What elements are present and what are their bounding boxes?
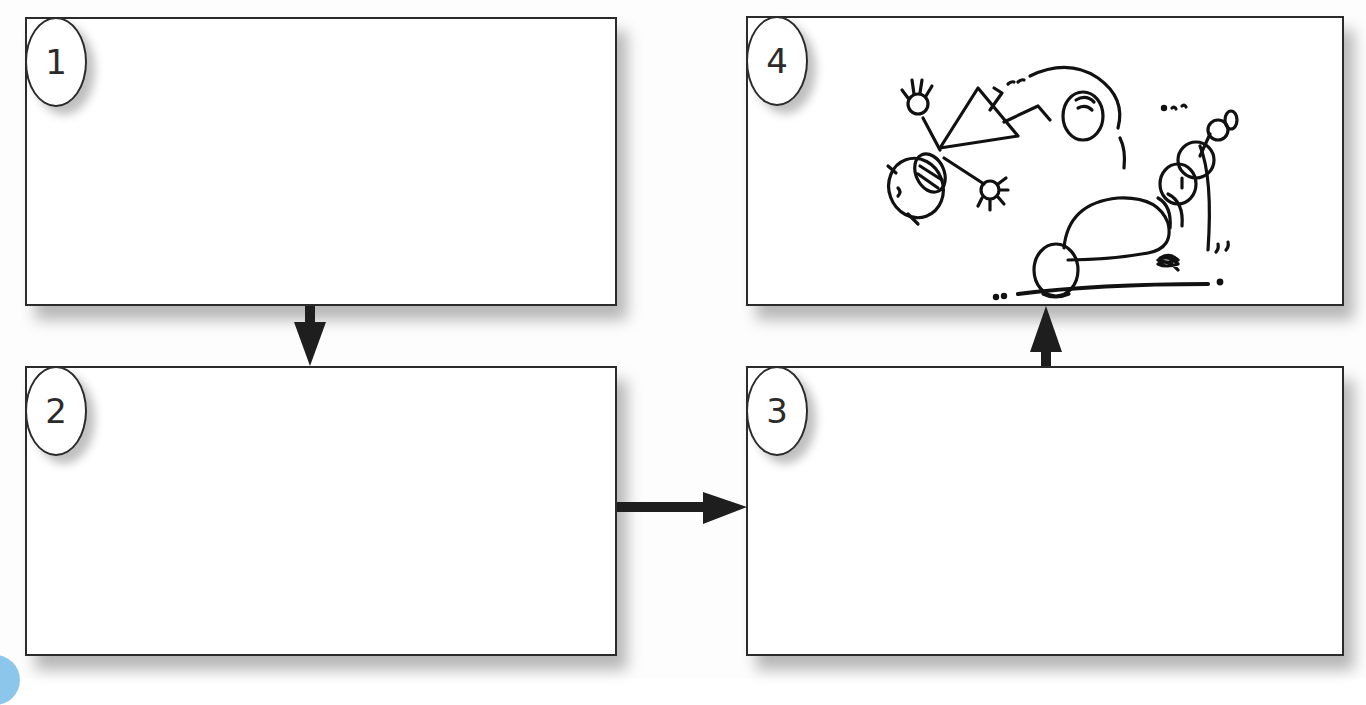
arrow-down-1-to-2 bbox=[292, 306, 328, 366]
arrow-up-3-to-4 bbox=[1028, 306, 1064, 366]
cartoon-illustration bbox=[878, 38, 1248, 308]
panel-number-badge: 3 bbox=[746, 366, 808, 456]
panel-3: 3 bbox=[746, 366, 1344, 656]
panel-1: 1 bbox=[25, 17, 617, 306]
panel-4: 4 bbox=[746, 16, 1344, 306]
panel-number-badge: 1 bbox=[25, 17, 87, 107]
panel-2: 2 bbox=[25, 366, 617, 656]
decorative-corner-circle bbox=[0, 655, 20, 705]
arrow-right-2-to-3 bbox=[617, 490, 747, 526]
panel-number-badge: 4 bbox=[746, 16, 808, 106]
panel-number-badge: 2 bbox=[25, 366, 87, 456]
